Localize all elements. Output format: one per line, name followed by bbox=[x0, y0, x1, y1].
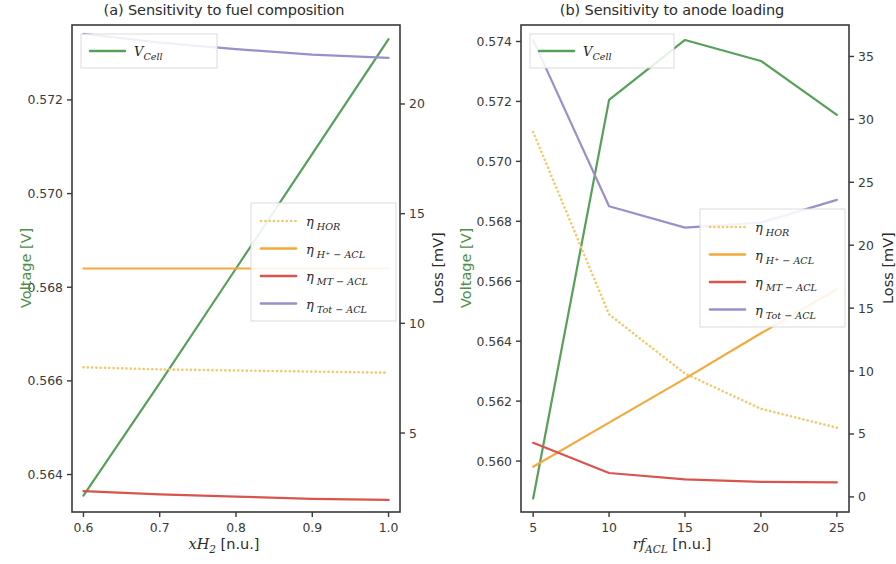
y-tick-label-left: 0.572 bbox=[28, 92, 63, 107]
y-tick-label-right: 20 bbox=[409, 96, 425, 111]
figure-root: (a) Sensitivity to fuel composition 0.60… bbox=[0, 0, 896, 564]
x-tick-label: 0.9 bbox=[302, 520, 322, 535]
y-tick-label-right: 5 bbox=[858, 426, 866, 441]
y-tick-label-left: 0.562 bbox=[477, 394, 512, 409]
panel-b-xlabel-var: rf bbox=[633, 536, 645, 552]
legend-vcell[interactable]: VCell bbox=[530, 34, 674, 68]
x-tick-label: 10 bbox=[601, 520, 617, 535]
panel-b-xlabel: rfACL [n.u.] bbox=[448, 536, 896, 555]
panel-b: (b) Sensitivity to anode loading 5101520… bbox=[448, 0, 896, 564]
y-tick-label-left: 0.560 bbox=[477, 454, 513, 469]
panel-a-ylabel-right: Loss [mV] bbox=[430, 232, 446, 304]
panel-b-xlabel-sub: ACL bbox=[645, 543, 668, 555]
panel-a-xlabel: xH2 [n.u.] bbox=[0, 536, 448, 555]
y-tick-label-left: 0.570 bbox=[28, 186, 64, 201]
y-tick-label-left: 0.564 bbox=[477, 334, 513, 349]
y-tick-label-right: 10 bbox=[409, 316, 425, 331]
panel-a-xlabel-var: xH bbox=[188, 536, 209, 552]
y-tick-label-left: 0.566 bbox=[28, 373, 64, 388]
series-line-eta-mt-acl bbox=[533, 443, 837, 483]
y-tick-label-right: 35 bbox=[858, 49, 874, 64]
y-tick-label-right: 15 bbox=[858, 301, 874, 316]
x-tick-label: 0.6 bbox=[74, 520, 94, 535]
x-tick-label: 15 bbox=[677, 520, 693, 535]
y-tick-label-right: 20 bbox=[858, 238, 874, 253]
legend-losses[interactable]: η HORη H⁺ − ACLη MT − ACLη Tot − ACL bbox=[700, 209, 845, 327]
x-tick-label: 1.0 bbox=[379, 520, 399, 535]
panel-b-ylabel-right: Loss [mV] bbox=[880, 232, 896, 304]
y-tick-label-left: 0.574 bbox=[477, 34, 513, 49]
x-tick-label: 25 bbox=[829, 520, 845, 535]
y-tick-label-left: 0.564 bbox=[28, 467, 64, 482]
y-tick-label-left: 0.572 bbox=[477, 94, 512, 109]
series-line-eta-mt-acl bbox=[83, 491, 388, 500]
x-tick-label: 20 bbox=[753, 520, 769, 535]
panel-a-ylabel-left: Voltage [V] bbox=[18, 228, 34, 308]
panel-b-xlabel-unit: [n.u.] bbox=[668, 536, 712, 552]
y-tick-label-right: 15 bbox=[409, 206, 425, 221]
panel-a-xlabel-unit: [n.u.] bbox=[216, 536, 260, 552]
panel-a-plot: 0.60.70.80.91.00.5640.5660.5680.5700.572… bbox=[0, 0, 448, 564]
panel-a: (a) Sensitivity to fuel composition 0.60… bbox=[0, 0, 448, 564]
legend-vcell[interactable]: VCell bbox=[81, 34, 217, 68]
y-tick-label-right: 10 bbox=[858, 364, 874, 379]
y-tick-label-left: 0.566 bbox=[477, 274, 513, 289]
y-tick-label-right: 30 bbox=[858, 112, 874, 127]
panel-b-ylabel-left: Voltage [V] bbox=[458, 228, 474, 308]
x-tick-label: 0.8 bbox=[226, 520, 246, 535]
series-line-eta-hor bbox=[83, 367, 388, 372]
y-tick-label-right: 25 bbox=[858, 175, 874, 190]
panel-a-xlabel-sub: 2 bbox=[209, 543, 216, 555]
y-tick-label-left: 0.570 bbox=[477, 154, 513, 169]
y-tick-label-left: 0.568 bbox=[477, 214, 513, 229]
y-tick-label-right: 0 bbox=[858, 489, 866, 504]
legend-losses[interactable]: η HORη H⁺ − ACLη MT − ACLη Tot − ACL bbox=[251, 203, 396, 321]
x-tick-label: 5 bbox=[529, 520, 537, 535]
panel-b-plot: 5101520250.5600.5620.5640.5660.5680.5700… bbox=[448, 0, 896, 564]
x-tick-label: 0.7 bbox=[150, 520, 170, 535]
y-tick-label-right: 5 bbox=[409, 426, 417, 441]
